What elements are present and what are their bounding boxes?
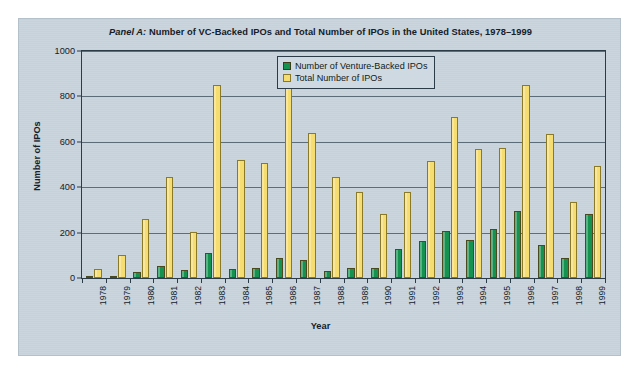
legend-swatch-vc-icon (283, 62, 291, 70)
x-tick-label-1981: 1981 (169, 286, 179, 305)
x-tick-mark (534, 278, 535, 283)
bar-vc-backed-1986 (276, 258, 283, 278)
x-tick-mark (153, 278, 154, 283)
y-tick-label: 200 (60, 228, 75, 238)
bar-total-1989 (356, 192, 363, 278)
bar-group (466, 51, 482, 278)
x-axis-label: Year (19, 321, 622, 331)
y-tick-label: 600 (60, 137, 75, 147)
bar-total-1999 (594, 166, 601, 278)
bar-group (514, 51, 530, 278)
bar-total-1978 (94, 269, 101, 278)
bar-total-1979 (118, 255, 125, 278)
bar-total-1994 (475, 149, 482, 278)
x-tick-label-1997: 1997 (550, 286, 560, 305)
chart-figure-panel: Panel A: Number of VC-Backed IPOs and To… (18, 18, 621, 356)
bar-group (157, 51, 173, 278)
bar-total-1988 (332, 177, 339, 278)
x-tick-mark (248, 278, 249, 283)
bar-total-1993 (451, 117, 458, 278)
figure-page: Panel A: Number of VC-Backed IPOs and To… (0, 0, 639, 374)
bar-vc-backed-1992 (419, 241, 426, 278)
chart-title: Panel A: Number of VC-Backed IPOs and To… (19, 27, 622, 37)
x-tick-mark (344, 278, 345, 283)
x-tick-label-1985: 1985 (264, 286, 274, 305)
bar-total-1995 (499, 148, 506, 278)
x-tick-mark (510, 278, 511, 283)
bar-total-1996 (522, 85, 529, 278)
bar-group (442, 51, 458, 278)
bar-group (86, 51, 102, 278)
bar-total-1990 (380, 214, 387, 278)
x-tick-label-1988: 1988 (336, 286, 346, 305)
bar-total-1997 (546, 134, 553, 278)
bar-vc-backed-1988 (324, 271, 331, 278)
x-tick-mark (106, 278, 107, 283)
bar-vc-backed-1989 (347, 268, 354, 278)
bar-group (538, 51, 554, 278)
legend-item-total: Total Number of IPOs (283, 72, 427, 84)
bar-group (181, 51, 197, 278)
bar-total-1982 (190, 232, 197, 278)
legend-label-total: Total Number of IPOs (295, 73, 382, 83)
x-tick-mark (225, 278, 226, 283)
bar-vc-backed-1985 (252, 268, 259, 278)
x-tick-mark (557, 278, 558, 283)
y-axis-label: Number of IPOs (32, 96, 42, 216)
bar-vc-backed-1995 (490, 229, 497, 278)
bar-vc-backed-1990 (371, 268, 378, 278)
panel-label: Panel A: (109, 27, 146, 37)
bar-total-1991 (404, 192, 411, 278)
x-tick-mark (486, 278, 487, 283)
x-tick-mark (201, 278, 202, 283)
x-tick-label-1998: 1998 (574, 286, 584, 305)
x-tick-label-1992: 1992 (431, 286, 441, 305)
bar-total-1980 (142, 219, 149, 278)
bar-group (252, 51, 268, 278)
chart-title-text: Number of VC-Backed IPOs and Total Numbe… (146, 27, 532, 37)
bar-vc-backed-1979 (110, 276, 117, 278)
x-tick-label-1989: 1989 (360, 286, 370, 305)
bar-vc-backed-1983 (205, 253, 212, 278)
x-tick-label-1978: 1978 (98, 286, 108, 305)
x-tick-label-1996: 1996 (526, 286, 536, 305)
x-tick-mark (130, 278, 131, 283)
legend-label-vc: Number of Venture-Backed IPOs (295, 61, 427, 71)
bar-vc-backed-1991 (395, 249, 402, 278)
y-tick-label: 0 (70, 273, 75, 283)
x-tick-mark (177, 278, 178, 283)
bar-vc-backed-1993 (442, 231, 449, 278)
bar-vc-backed-1978 (86, 276, 93, 278)
bar-group (205, 51, 221, 278)
bar-total-1986 (285, 61, 292, 278)
x-tick-mark (272, 278, 273, 283)
x-tick-mark (581, 278, 582, 283)
bar-group (585, 51, 601, 278)
x-tick-label-1987: 1987 (312, 286, 322, 305)
x-tick-label-1993: 1993 (455, 286, 465, 305)
x-tick-mark (415, 278, 416, 283)
x-tick-mark (296, 278, 297, 283)
x-tick-label-1994: 1994 (478, 286, 488, 305)
x-tick-label-1980: 1980 (146, 286, 156, 305)
bar-vc-backed-1994 (466, 240, 473, 278)
chart-legend: Number of Venture-Backed IPOs Total Numb… (277, 56, 435, 89)
y-tick-label: 400 (60, 182, 75, 192)
x-tick-mark (605, 278, 606, 283)
legend-swatch-total-icon (283, 74, 291, 82)
x-tick-mark (462, 278, 463, 283)
x-tick-label-1991: 1991 (407, 286, 417, 305)
x-tick-label-1995: 1995 (502, 286, 512, 305)
bar-vc-backed-1999 (585, 214, 592, 278)
y-tick-label: 1000 (55, 46, 75, 56)
bar-group (110, 51, 126, 278)
x-tick-label-1990: 1990 (383, 286, 393, 305)
x-tick-mark (439, 278, 440, 283)
bar-group (229, 51, 245, 278)
legend-item-vc-backed: Number of Venture-Backed IPOs (283, 60, 427, 72)
bar-vc-backed-1987 (300, 260, 307, 278)
x-tick-label-1999: 1999 (597, 286, 607, 305)
y-tick-label: 800 (60, 91, 75, 101)
bar-group (490, 51, 506, 278)
x-tick-label-1979: 1979 (122, 286, 132, 305)
